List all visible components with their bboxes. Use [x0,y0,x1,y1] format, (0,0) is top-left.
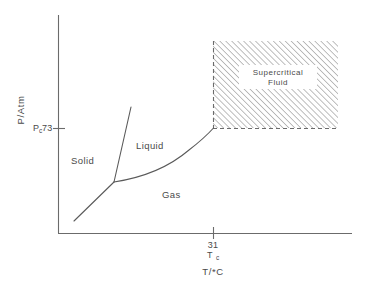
gas-region-label: Gas [162,189,181,200]
supercritical-label-line2: Fluid [268,78,288,87]
liquid-region-label: Liquid [136,140,164,151]
y-axis-title: P/Atm [15,96,26,125]
x-axis-tick-label-group: 31 T c [207,240,220,261]
sublimation-curve [74,182,114,221]
y-axis-tick-label-group: P c 73 [33,123,53,134]
x-tick-symbol: T [207,250,213,260]
x-tick-value: 31 [208,240,219,250]
region-labels: Solid Liquid Gas [71,140,181,200]
x-axis-title: T/*C [202,266,223,277]
phase-diagram-svg: Supercritical Fluid Solid Liquid Gas P c… [0,0,365,284]
fusion-curve [114,107,131,182]
x-tick-symbol-subscript: c [216,254,220,261]
y-tick-value: 73 [42,123,53,133]
supercritical-label-line1: Supercritical [253,68,304,77]
phase-diagram-figure: Supercritical Fluid Solid Liquid Gas P c… [0,0,365,284]
vaporization-curve [114,128,214,182]
phase-boundaries [74,107,214,221]
solid-region-label: Solid [71,155,94,166]
supercritical-region: Supercritical Fluid [213,41,338,129]
